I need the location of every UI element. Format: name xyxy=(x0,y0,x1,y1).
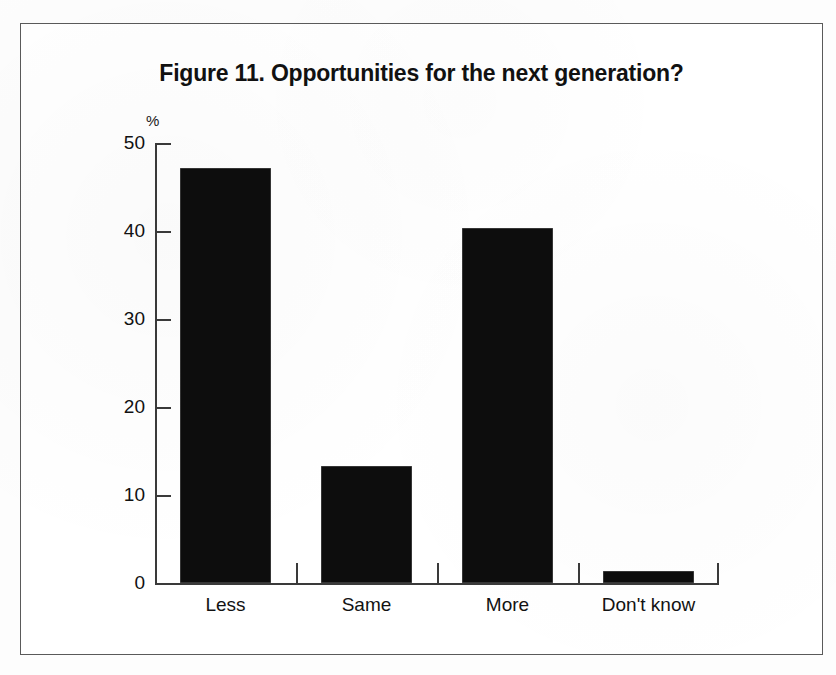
bar-don-t-know xyxy=(603,571,694,583)
y-axis-tick-label: 20 xyxy=(103,396,145,418)
bar-more xyxy=(462,228,553,583)
x-axis-boundary-tick xyxy=(296,563,298,583)
x-axis-boundary-tick xyxy=(578,563,580,583)
y-axis-tick-mark xyxy=(155,319,171,321)
y-axis-line xyxy=(155,143,157,584)
scanned-page: Figure 11. Opportunities for the next ge… xyxy=(0,0,836,675)
x-axis-category-label: Less xyxy=(155,594,296,616)
x-axis-category-label: Don't know xyxy=(578,594,719,616)
y-axis-tick-label: 0 xyxy=(103,572,145,594)
x-axis-category-label: Same xyxy=(296,594,437,616)
y-axis-tick-mark xyxy=(155,231,171,233)
bar-same xyxy=(321,466,412,583)
y-axis-unit-label: % xyxy=(146,112,159,129)
y-axis-tick-mark xyxy=(155,495,171,497)
y-axis-tick-label: 50 xyxy=(103,132,145,154)
x-axis-boundary-tick xyxy=(437,563,439,583)
y-axis-tick-mark xyxy=(155,143,171,145)
bar-chart-plot: % 01020304050 LessSameMoreDon't know xyxy=(0,0,836,675)
y-axis-tick-label: 10 xyxy=(103,484,145,506)
x-axis-end-cap xyxy=(717,563,719,583)
y-axis-tick-label: 30 xyxy=(103,308,145,330)
bar-less xyxy=(180,168,271,583)
y-axis-tick-mark xyxy=(155,407,171,409)
x-axis-category-label: More xyxy=(437,594,578,616)
x-axis-line xyxy=(155,583,719,585)
y-axis-tick-label: 40 xyxy=(103,220,145,242)
